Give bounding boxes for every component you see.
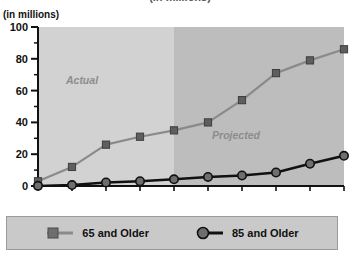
legend-label-65-and-older: 65 and Older <box>82 227 149 239</box>
data-point-65-and-older <box>340 46 347 53</box>
region-actual <box>38 27 174 186</box>
data-point-65-and-older <box>68 163 75 170</box>
data-point-85-and-older <box>340 152 348 160</box>
annotation-projected: Projected <box>212 129 260 141</box>
y-axis-tick-label: 20 <box>16 148 28 160</box>
y-axis-unit-label: (in millions) <box>3 9 59 20</box>
legend-item-65-and-older[interactable]: 65 and Older <box>45 226 149 240</box>
data-point-85-and-older <box>102 178 110 186</box>
data-point-85-and-older <box>204 173 212 181</box>
data-point-65-and-older <box>306 57 313 64</box>
y-axis-tick-label: 40 <box>16 116 28 128</box>
y-axis-tick-label: 80 <box>16 53 28 65</box>
chart-title-clipped: (in millions) <box>0 0 360 9</box>
annotation-actual: Actual <box>65 74 99 86</box>
legend-item-85-and-older[interactable]: 85 and Older <box>195 226 299 240</box>
data-point-85-and-older <box>306 160 314 168</box>
y-axis-tick-label: 60 <box>16 85 28 97</box>
y-axis-tick-label: 100 <box>10 22 28 33</box>
data-point-65-and-older <box>136 133 143 140</box>
y-axis-tick-label: 0 <box>22 180 28 192</box>
chart-title-text: (in millions) <box>149 0 211 3</box>
data-point-85-and-older <box>272 168 280 176</box>
legend-key-square-icon <box>45 226 75 240</box>
data-point-85-and-older <box>136 177 144 185</box>
data-point-65-and-older <box>238 97 245 104</box>
chart-legend: 65 and Older 85 and Older <box>6 216 338 250</box>
data-point-85-and-older <box>238 171 246 179</box>
legend-label-85-and-older: 85 and Older <box>232 227 299 239</box>
data-point-85-and-older <box>68 181 76 189</box>
chart-figure: (in millions) (in millions) ActualProjec… <box>0 0 360 255</box>
legend-key-circle-icon <box>195 226 225 240</box>
chart-canvas: ActualProjected0204060801001900195019801… <box>0 22 360 194</box>
data-point-65-and-older <box>170 127 177 134</box>
plot-area: ActualProjected0204060801001900195019801… <box>0 22 360 194</box>
data-point-85-and-older <box>34 182 42 190</box>
data-point-65-and-older <box>204 119 211 126</box>
data-point-65-and-older <box>272 70 279 77</box>
data-point-65-and-older <box>102 141 109 148</box>
data-point-85-and-older <box>170 175 178 183</box>
